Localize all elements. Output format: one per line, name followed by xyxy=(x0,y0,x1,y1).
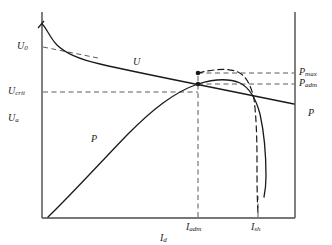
operating-point-upper-marker xyxy=(196,71,201,76)
bottom-axis-subscript: d xyxy=(163,236,167,244)
u0-subscript: 0 xyxy=(24,44,28,52)
right-axis-title: P xyxy=(308,108,314,118)
plot-canvas xyxy=(0,0,332,245)
axis-tick-label-u0: U0 xyxy=(17,41,28,52)
right-axis-symbol: P xyxy=(308,107,314,118)
axis-tick-label-ucrit: Ucrit xyxy=(8,86,25,97)
axis-tick-label-padm: Padm xyxy=(299,78,317,89)
bottom-axis-title: Id xyxy=(160,233,167,244)
axis-tick-label-ish: Ish xyxy=(251,222,261,233)
left-axis-subscript: a xyxy=(15,116,19,124)
operating-point-lower-marker xyxy=(196,82,201,87)
iadm-subscript: adm xyxy=(189,225,201,233)
power-curve-label: P xyxy=(91,134,97,144)
power-curve xyxy=(48,80,266,217)
u0-tangent-guide xyxy=(43,47,98,58)
padm-subscript: adm xyxy=(305,81,317,89)
diagram-figure: U0 Ucrit Ua Pmax Padm P Iadm Ish Id U P xyxy=(0,0,332,245)
left-axis-title: Ua xyxy=(8,113,19,124)
axis-tick-label-iadm: Iadm xyxy=(186,222,201,233)
ucrit-subscript: crit xyxy=(15,89,25,97)
ish-subscript: sh xyxy=(254,225,260,233)
voltage-curve-label: U xyxy=(133,57,140,67)
